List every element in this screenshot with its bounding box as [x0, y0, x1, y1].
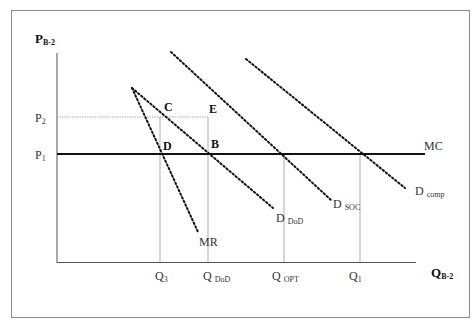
price-label-p1: P1: [35, 149, 46, 165]
x-axis-label: QB-2: [431, 267, 453, 283]
d-dod-curve: [132, 88, 273, 208]
point-label-d: D: [163, 140, 172, 152]
point-label-b: B: [211, 138, 219, 150]
d-comp-label: D comp: [415, 185, 444, 201]
d-soc-label: D SOC: [333, 198, 360, 214]
quantity-label-q3: Q3: [155, 270, 168, 286]
mc-label: MC: [424, 140, 443, 152]
quantity-label-qopt: Q OPT: [272, 270, 299, 286]
price-label-p2: P2: [35, 112, 46, 128]
diagram-frame: [12, 11, 470, 318]
y-axis-label: PB-2: [35, 33, 55, 49]
diagram-canvas: [0, 0, 474, 329]
mr-label: MR: [199, 236, 218, 248]
quantity-label-q1: Q1: [349, 270, 362, 286]
point-label-e: E: [209, 103, 217, 115]
d-dod-label: D DoD: [276, 212, 303, 228]
point-label-c: C: [164, 101, 173, 113]
quantity-label-qdod: Q DoD: [203, 270, 230, 286]
d-soc-curve: [171, 52, 331, 200]
d-comp-curve: [246, 59, 405, 188]
